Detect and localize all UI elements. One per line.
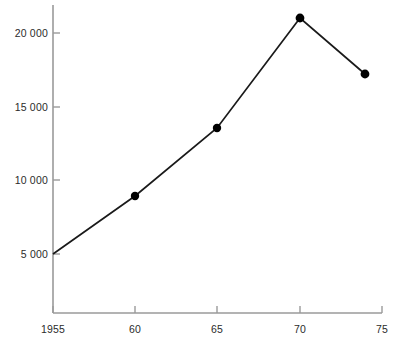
x-tick-label-1965: 65 xyxy=(197,323,237,335)
y-tick-label-20000: 20 000 xyxy=(0,27,48,39)
data-point-markers xyxy=(131,14,370,201)
y-tick-label-10000: 10 000 xyxy=(0,174,48,186)
y-tick-label-15000: 15 000 xyxy=(0,101,48,113)
data-point-1960 xyxy=(131,192,139,200)
x-tick-label-1960: 60 xyxy=(115,323,155,335)
x-tick-label-1975: 75 xyxy=(362,323,394,335)
chart-plot-area xyxy=(0,0,394,350)
data-point-1965 xyxy=(213,124,221,132)
data-series-line xyxy=(53,18,365,254)
x-tick-label-1970: 70 xyxy=(280,323,320,335)
x-axis-ticks xyxy=(53,306,382,313)
data-point-1974 xyxy=(361,70,370,79)
x-tick-label-1955: 1955 xyxy=(33,323,73,335)
y-axis-ticks xyxy=(53,33,60,254)
line-chart: 20 000 15 000 10 000 5 000 1955 60 65 70… xyxy=(0,0,394,350)
y-tick-label-5000: 5 000 xyxy=(0,248,48,260)
data-point-1970 xyxy=(296,14,305,23)
